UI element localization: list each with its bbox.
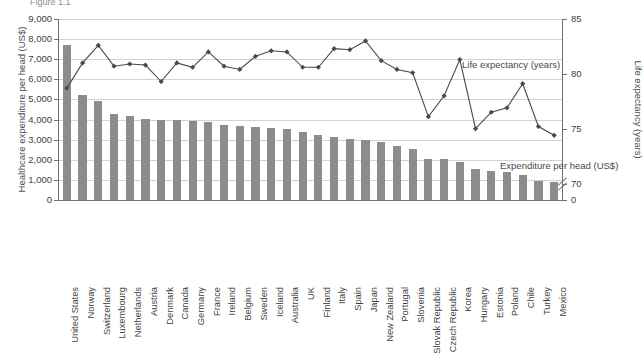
y-tick-label-right: 75	[571, 124, 595, 134]
y-tick-label-left: 4,000	[8, 115, 52, 125]
line-marker	[347, 47, 352, 52]
x-axis-category-label: Netherlands	[133, 287, 143, 337]
clipped-figure-caption: Figure 1.1	[30, 0, 150, 7]
line-marker	[536, 124, 541, 129]
y-tick-label-right: 70	[571, 179, 595, 189]
x-axis-category-label: Switzerland	[102, 287, 112, 335]
y-axis-left-title: Healthcare expenditure per head (US$)	[16, 20, 27, 200]
y-axis-right-line	[562, 19, 563, 201]
y-tick-right	[562, 200, 567, 201]
y-axis-right-title: Life expectancy (years)	[633, 20, 644, 200]
line-marker	[269, 48, 274, 53]
y-tick-label-left: 0	[8, 195, 52, 205]
y-tick-label-right: 0	[571, 195, 595, 205]
x-axis-category-label: Slovak Republic	[432, 287, 442, 354]
y-tick-right	[562, 74, 567, 75]
x-axis-category-label: Czech Republic	[448, 287, 458, 352]
source-note	[4, 286, 634, 293]
y-tick-label-right: 85	[571, 14, 595, 24]
x-axis-category-label: United States	[70, 287, 80, 343]
line-marker	[552, 133, 557, 138]
line-marker	[64, 86, 69, 91]
plot-area: 01,0002,0003,0004,0005,0006,0007,0008,00…	[59, 19, 562, 200]
y-tick-label-left: 3,000	[8, 135, 52, 145]
x-axis-category-label: New Zealand	[385, 287, 395, 342]
x-axis-category-labels: United StatesNorwaySwitzerlandLuxembourg…	[59, 201, 562, 289]
line-marker	[394, 67, 399, 72]
y-tick-label-right: 80	[571, 69, 595, 79]
y-tick-label-left: 7,000	[8, 54, 52, 64]
line-marker	[410, 70, 415, 75]
y-tick-label-left: 9,000	[8, 14, 52, 24]
legend-label-life-expectancy: Life expectancy (years)	[462, 59, 560, 70]
y-tick-label-left: 8,000	[8, 34, 52, 44]
y-tick-label-left: 5,000	[8, 94, 52, 104]
y-tick-label-left: 1,000	[8, 175, 52, 185]
line-series	[59, 19, 562, 200]
x-axis-category-label: Luxembourg	[117, 287, 127, 339]
y-tick-right	[562, 19, 567, 20]
legend-label-expenditure: Expenditure per head (US$)	[500, 160, 618, 171]
y-tick-label-left: 2,000	[8, 155, 52, 165]
y-tick-label-left: 6,000	[8, 74, 52, 84]
line-marker	[127, 61, 132, 66]
y-tick-right	[562, 129, 567, 130]
